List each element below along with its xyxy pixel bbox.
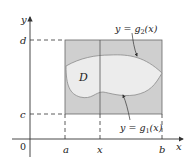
tick-label-d: d bbox=[20, 35, 26, 46]
tick-label-b: b bbox=[159, 144, 165, 155]
x-axis-label: x bbox=[176, 141, 182, 152]
tick-label-c: c bbox=[20, 109, 26, 120]
tick-label-a: a bbox=[63, 144, 69, 155]
upper-curve-label: y = g2(x) bbox=[114, 23, 158, 36]
origin-label: 0 bbox=[20, 141, 26, 152]
lower-curve-label: y = g1(x) bbox=[119, 122, 163, 135]
region-label-d: D bbox=[78, 71, 88, 84]
tick-label-x: x bbox=[97, 144, 103, 155]
region-diagram: y x 0 d c a x b D y = g2(x) y = g1(x) bbox=[0, 0, 192, 167]
y-axis-label: y bbox=[20, 14, 27, 25]
